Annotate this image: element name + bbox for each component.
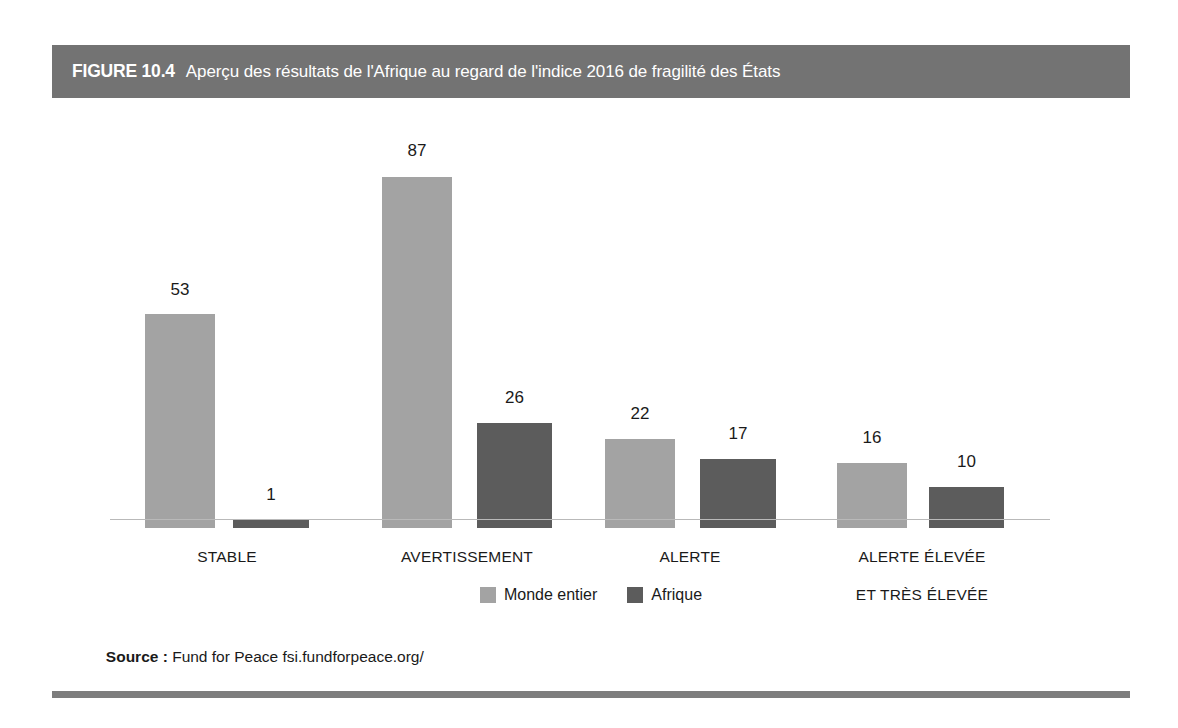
- bar-value-label: 17: [700, 424, 776, 444]
- source-line: Source : Fund for Peace fsi.fundforpeace…: [80, 630, 424, 684]
- bar-afrique-avertissement: [477, 423, 552, 528]
- category-label-line1: ALERTE ÉLEVÉE: [827, 547, 1017, 566]
- category-label-alerte: ALERTE: [600, 528, 780, 585]
- category-label-line1: STABLE: [137, 547, 317, 566]
- bar-value-label: 26: [477, 388, 552, 408]
- figure-bottom-rule: [52, 691, 1130, 698]
- bar-value-label: 53: [145, 280, 215, 300]
- bar-afrique-alerte-elevee: [929, 487, 1004, 528]
- category-label-line1: ALERTE: [600, 547, 780, 566]
- figure-panel: FIGURE 10.4 Aperçu des résultats de l'Af…: [0, 0, 1178, 728]
- figure-number: FIGURE 10.4: [72, 61, 175, 82]
- figure-title: Aperçu des résultats de l'Afrique au reg…: [186, 62, 781, 82]
- legend-swatch-icon: [480, 587, 496, 603]
- legend-label: Afrique: [651, 586, 702, 604]
- figure-header-bar: FIGURE 10.4 Aperçu des résultats de l'Af…: [52, 45, 1130, 98]
- bar-value-label: 87: [382, 141, 452, 161]
- category-label-alerte-elevee: ALERTE ÉLEVÉE ET TRÈS ÉLEVÉE: [827, 528, 1017, 623]
- bar-value-label: 10: [929, 452, 1004, 472]
- bar-chart: 53 1 87 26 22 17 16 10: [52, 108, 1130, 528]
- legend-swatch-icon: [627, 587, 643, 603]
- category-label-line1: AVERTISSEMENT: [357, 547, 577, 566]
- bar-afrique-stable: [233, 519, 309, 528]
- source-label: Source :: [106, 648, 168, 665]
- bar-monde-entier-stable: [145, 314, 215, 528]
- bar-monde-entier-alerte: [605, 439, 675, 528]
- legend-item-afrique: Afrique: [627, 586, 702, 604]
- bar-afrique-alerte: [700, 459, 776, 528]
- category-label-avertissement: AVERTISSEMENT: [357, 528, 577, 585]
- legend-item-monde-entier: Monde entier: [480, 586, 597, 604]
- source-text: Fund for Peace fsi.fundforpeace.org/: [168, 648, 424, 665]
- legend-label: Monde entier: [504, 586, 597, 604]
- bar-value-label: 22: [605, 404, 675, 424]
- chart-legend: Monde entier Afrique: [52, 586, 1130, 604]
- bar-monde-entier-avertissement: [382, 177, 452, 528]
- chart-plot-area: 53 1 87 26 22 17 16 10 STABLE: [52, 108, 1130, 688]
- bar-value-label: 16: [837, 428, 907, 448]
- category-label-stable: STABLE: [137, 528, 317, 585]
- x-axis-category-labels: STABLE AVERTISSEMENT ALERTE ALERTE ÉLEVÉ…: [52, 528, 1130, 588]
- x-axis-line: [110, 519, 1050, 520]
- bar-value-label: 1: [233, 485, 309, 505]
